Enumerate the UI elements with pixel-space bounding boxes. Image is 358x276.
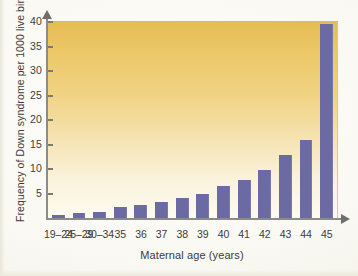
bar (155, 202, 168, 218)
bar-slot (48, 22, 69, 218)
bar (176, 198, 189, 218)
x-axis-line (46, 218, 342, 220)
bar (320, 24, 333, 218)
bar-series (48, 22, 337, 218)
bar (134, 205, 147, 218)
bar (217, 186, 230, 218)
bar (300, 140, 313, 218)
bar-slot (193, 22, 214, 218)
bar-slot (296, 22, 317, 218)
bar-slot (131, 22, 152, 218)
x-axis-arrowhead-icon (341, 214, 350, 224)
y-axis-arrowhead-icon (42, 10, 52, 19)
bar-slot (151, 22, 172, 218)
y-axis-line (46, 18, 48, 219)
figure-canvas: 510152025303540 19–2425–2930–34353637383… (0, 0, 358, 276)
bar-slot (254, 22, 275, 218)
y-axis-title: Frequency of Down syndrome per 1000 live… (14, 10, 26, 222)
bar (114, 207, 127, 218)
bar-slot (89, 22, 110, 218)
bar (258, 170, 271, 218)
bar (279, 155, 292, 218)
bar (238, 180, 251, 218)
bar-slot (172, 22, 193, 218)
x-axis-title: Maternal age (years) (47, 249, 337, 261)
x-axis-tick-labels: 19–2425–2930–343536373839404142434445 (48, 228, 337, 242)
bar-slot (316, 22, 337, 218)
x-axis-tick-label: 45 (307, 228, 346, 240)
bar (196, 194, 209, 218)
bar-slot (110, 22, 131, 218)
bar-slot (275, 22, 296, 218)
bar-slot (213, 22, 234, 218)
bar-slot (69, 22, 90, 218)
bar-slot (234, 22, 255, 218)
